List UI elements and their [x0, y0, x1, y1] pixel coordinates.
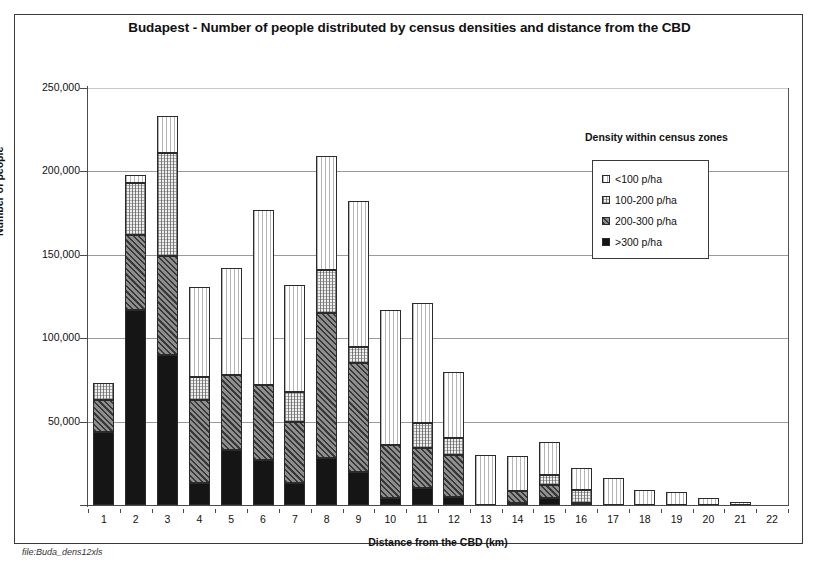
bar-column — [93, 88, 114, 505]
bar-segment — [475, 455, 496, 505]
bar-column — [762, 88, 783, 505]
bar-segment — [348, 363, 369, 471]
x-axis-line — [87, 505, 789, 506]
x-axis-tick — [152, 509, 153, 513]
y-axis-tick — [80, 88, 88, 89]
bar-segment — [316, 156, 337, 269]
bar-segment — [253, 210, 274, 385]
legend-swatch-icon — [602, 196, 610, 204]
bars-area — [88, 88, 788, 505]
x-axis-tick — [502, 509, 503, 513]
bar-segment — [284, 285, 305, 392]
bar-segment — [253, 460, 274, 505]
bar-segment — [284, 483, 305, 505]
x-axis-tick — [247, 509, 248, 513]
bar-column — [698, 88, 719, 505]
x-axis-tick-label: 3 — [153, 513, 183, 525]
legend-item: <100 p/ha — [602, 169, 662, 189]
x-axis-tick — [438, 509, 439, 513]
legend-item: 200-300 p/ha — [602, 211, 677, 231]
x-axis-tick — [661, 509, 662, 513]
bar-column — [412, 88, 433, 505]
x-axis-title: Distance from the CBD (km) — [88, 536, 788, 548]
x-axis-tick — [343, 509, 344, 513]
legend: <100 p/ha100-200 p/ha200-300 p/ha>300 p/… — [592, 160, 709, 259]
bar-segment — [189, 483, 210, 505]
bar-segment — [284, 422, 305, 484]
bar-segment — [125, 310, 146, 505]
bar-segment — [507, 456, 528, 491]
y-axis-tick — [80, 338, 88, 339]
y-axis-title: Number of people — [0, 147, 5, 236]
x-axis-tick-label: 1 — [89, 513, 119, 525]
bar-segment — [380, 310, 401, 445]
bar-column — [443, 88, 464, 505]
x-axis-tick — [183, 509, 184, 513]
bar-segment — [443, 455, 464, 497]
legend-item: >300 p/ha — [602, 232, 662, 252]
legend-item-label: <100 p/ha — [615, 173, 662, 185]
bar-segment — [157, 153, 178, 256]
bar-segment — [539, 485, 560, 498]
x-axis-tick-label: 13 — [471, 513, 501, 525]
bar-column — [603, 88, 624, 505]
y-axis-labels: 50,000100,000150,000200,000250,000 — [8, 0, 80, 581]
legend-swatch-icon — [602, 217, 610, 225]
bar-segment — [316, 458, 337, 505]
x-axis-tick-label: 9 — [343, 513, 373, 525]
bar-segment — [253, 385, 274, 460]
bar-segment — [93, 432, 114, 505]
bar-segment — [698, 498, 719, 505]
bar-segment — [125, 175, 146, 183]
bar-segment — [412, 488, 433, 505]
bar-column — [284, 88, 305, 505]
bar-column — [730, 88, 751, 505]
x-axis-tick — [724, 509, 725, 513]
x-axis-tick — [693, 509, 694, 513]
y-axis-tick — [80, 171, 88, 172]
bar-segment — [189, 377, 210, 400]
x-axis-tick — [311, 509, 312, 513]
bar-segment — [221, 268, 242, 375]
bar-segment — [189, 287, 210, 377]
footer-file-note: file:Buda_dens12xls — [22, 547, 103, 557]
bar-segment — [443, 372, 464, 439]
x-axis-labels: 12345678910111213141516171819202122 — [88, 509, 788, 529]
x-axis-tick-label: 5 — [216, 513, 246, 525]
bar-segment — [125, 235, 146, 310]
bar-segment — [316, 270, 337, 313]
bar-column — [189, 88, 210, 505]
bar-segment — [666, 492, 687, 505]
bar-column — [125, 88, 146, 505]
x-axis-tick-label: 11 — [407, 513, 437, 525]
x-axis-tick — [120, 509, 121, 513]
bar-segment — [189, 400, 210, 483]
x-axis-tick — [470, 509, 471, 513]
bar-segment — [730, 502, 751, 505]
bar-segment — [125, 183, 146, 235]
bar-segment — [348, 347, 369, 364]
x-axis-tick — [374, 509, 375, 513]
bar-segment — [412, 303, 433, 423]
bar-column — [475, 88, 496, 505]
x-axis-tick — [406, 509, 407, 513]
bar-segment — [221, 375, 242, 450]
legend-swatch-icon — [602, 238, 610, 246]
legend-item-label: 200-300 p/ha — [615, 215, 677, 227]
x-axis-tick — [533, 509, 534, 513]
x-axis-tick-label: 18 — [630, 513, 660, 525]
x-axis-tick-label: 17 — [598, 513, 628, 525]
bar-segment — [507, 491, 528, 503]
bar-segment — [93, 400, 114, 432]
bar-column — [571, 88, 592, 505]
x-axis-tick-label: 21 — [725, 513, 755, 525]
bar-column — [348, 88, 369, 505]
x-axis-tick-label: 10 — [375, 513, 405, 525]
y-axis-tick-label: 200,000 — [18, 164, 80, 176]
bar-column — [316, 88, 337, 505]
x-axis-tick-label: 19 — [662, 513, 692, 525]
x-axis-tick-label: 16 — [566, 513, 596, 525]
bar-column — [221, 88, 242, 505]
x-axis-tick-label: 15 — [534, 513, 564, 525]
x-axis-tick-label: 20 — [693, 513, 723, 525]
